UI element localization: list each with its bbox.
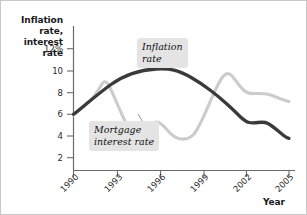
x-axis-ticks [74, 171, 290, 178]
y-tick-label-12: 12% [35, 44, 63, 54]
y-tick-label-10: 10 [35, 66, 63, 76]
chart-figure: Inflation rate, interest rate Year 12% 1… [0, 0, 307, 215]
x-axis-title: Year [263, 197, 303, 208]
y-tick-label-6: 6 [35, 109, 63, 119]
callout-inflation-line-2: rate [142, 53, 162, 64]
y-tick-label-8: 8 [35, 88, 63, 98]
y-axis-title-line-1: Inflation rate, [21, 15, 63, 36]
y-tick-label-4: 4 [35, 131, 63, 141]
callout-mortgage-interest-rate: Mortgage interest rate [89, 121, 159, 151]
callout-inflation-rate: Inflation rate [137, 38, 188, 68]
callout-mortgage-line-2: interest rate [94, 136, 154, 147]
callout-inflation-line-1: Inflation [142, 41, 183, 52]
callout-mortgage-line-1: Mortgage [94, 124, 141, 135]
y-tick-label-2: 2 [35, 153, 63, 163]
